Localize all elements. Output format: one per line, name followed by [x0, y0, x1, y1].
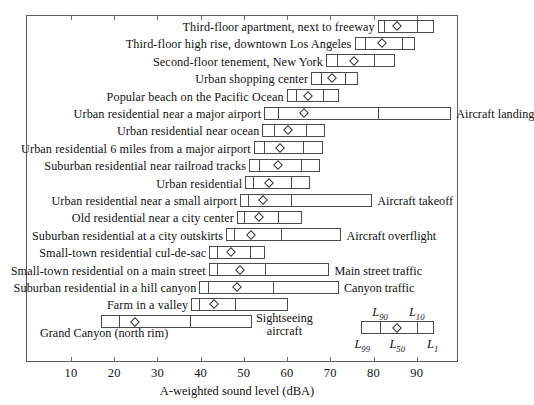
legend-line-L10: [417, 321, 418, 334]
legend-label-L50: L50: [377, 337, 417, 354]
legend-label-L90: L90: [360, 305, 400, 322]
legend-line-L90: [380, 321, 381, 334]
legend-label-L1: L1: [413, 337, 453, 354]
legend-label-L10: L10: [397, 305, 437, 322]
x-axis-title: A-weighted sound level (dBA): [0, 384, 474, 399]
legend-label-L99: L99: [342, 337, 382, 354]
